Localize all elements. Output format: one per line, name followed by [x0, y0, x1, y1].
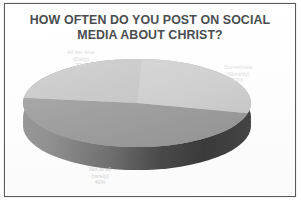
- pie-label-all-the-time-value: 23%: [45, 62, 117, 69]
- pie-label-not-at-all-qualifier: (rarely): [61, 173, 139, 180]
- pie-label-sometimes-qualifier: (Monthly): [201, 71, 275, 78]
- pie-label-sometimes: Sometimes (Monthly) 31%: [201, 64, 275, 84]
- pie-label-sometimes-value: 31%: [201, 77, 275, 84]
- chart-title-line-2: MEDIA ABOUT CHRIST?: [5, 28, 295, 43]
- pie-label-not-at-all-name: Not at all: [61, 166, 139, 173]
- pie-label-all-the-time-name: All the time: [45, 49, 117, 56]
- pie-label-not-at-all: Not at all (rarely) 46%: [61, 166, 139, 186]
- pie-label-all-the-time-qualifier: (Daily): [45, 56, 117, 63]
- chart-title-line-1: HOW OFTEN DO YOU POST ON SOCIAL: [5, 13, 295, 28]
- pie-label-all-the-time: All the time (Daily) 23%: [45, 49, 117, 69]
- pie-label-not-at-all-value: 46%: [61, 179, 139, 186]
- pie-label-sometimes-name: Sometimes: [201, 64, 275, 71]
- chart-frame: HOW OFTEN DO YOU POST ON SOCIAL MEDIA AB…: [4, 3, 296, 197]
- chart-title: HOW OFTEN DO YOU POST ON SOCIAL MEDIA AB…: [5, 13, 295, 42]
